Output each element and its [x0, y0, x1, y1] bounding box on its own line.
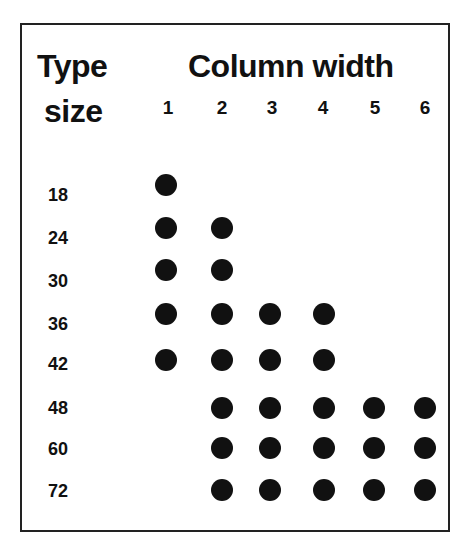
data-point-dot	[211, 349, 233, 371]
x-axis-title: Column width	[188, 50, 394, 82]
row-label: 72	[48, 482, 68, 500]
data-point-dot	[259, 303, 281, 325]
column-label: 2	[207, 98, 237, 117]
data-point-dot	[155, 217, 177, 239]
data-point-dot	[313, 397, 335, 419]
data-point-dot	[211, 259, 233, 281]
row-label: 42	[48, 355, 68, 373]
row-label: 24	[48, 229, 68, 247]
row-label: 48	[48, 399, 68, 417]
data-point-dot	[363, 479, 385, 501]
data-point-dot	[363, 397, 385, 419]
row-label: 30	[48, 272, 68, 290]
y-axis-title-line2: size	[44, 95, 102, 127]
data-point-dot	[363, 437, 385, 459]
column-label: 1	[153, 98, 183, 117]
data-point-dot	[414, 397, 436, 419]
data-point-dot	[313, 349, 335, 371]
row-label: 60	[48, 440, 68, 458]
data-point-dot	[259, 349, 281, 371]
data-point-dot	[313, 479, 335, 501]
row-label: 18	[48, 186, 68, 204]
data-point-dot	[259, 437, 281, 459]
data-point-dot	[155, 174, 177, 196]
data-point-dot	[414, 479, 436, 501]
data-point-dot	[155, 349, 177, 371]
data-point-dot	[211, 397, 233, 419]
data-point-dot	[155, 259, 177, 281]
data-point-dot	[211, 217, 233, 239]
y-axis-title-line1: Type	[37, 50, 107, 82]
data-point-dot	[211, 437, 233, 459]
data-point-dot	[414, 437, 436, 459]
column-label: 5	[360, 98, 390, 117]
data-point-dot	[155, 303, 177, 325]
data-point-dot	[211, 479, 233, 501]
data-point-dot	[313, 303, 335, 325]
column-label: 6	[410, 98, 440, 117]
column-label: 4	[308, 98, 338, 117]
column-label: 3	[257, 98, 287, 117]
data-point-dot	[211, 303, 233, 325]
row-label: 36	[48, 315, 68, 333]
data-point-dot	[313, 437, 335, 459]
data-point-dot	[259, 397, 281, 419]
data-point-dot	[259, 479, 281, 501]
